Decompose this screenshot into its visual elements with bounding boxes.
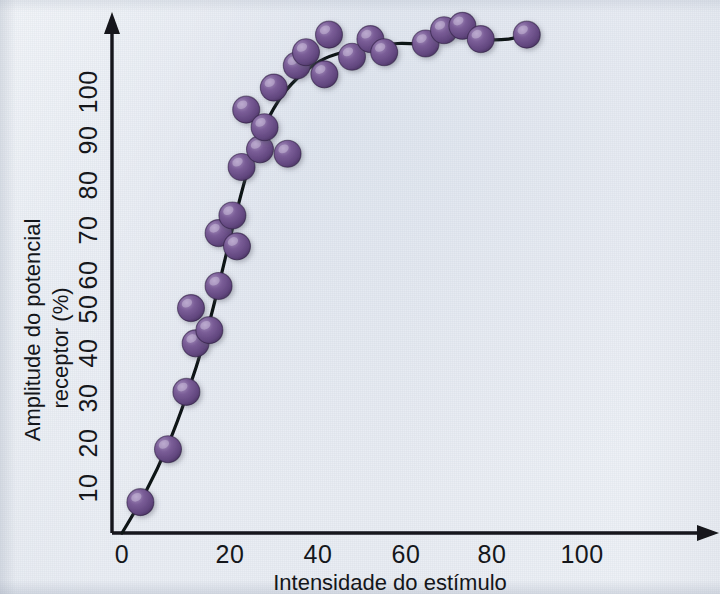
data-point-marker [219, 202, 246, 229]
y-tick-label-group: 10 20 30 40 50 60 70 80 90 100 [74, 70, 102, 502]
x-tick-label: 100 [560, 540, 603, 568]
data-point-marker [196, 317, 223, 344]
x-tick-label: 80 [478, 540, 507, 568]
data-point-marker [155, 436, 182, 463]
y-tick-label: 20 [74, 429, 102, 458]
data-point-marker [371, 39, 398, 66]
data-point-marker [467, 26, 494, 53]
data-point-marker [205, 273, 232, 300]
x-axis-title: Intensidade do estímulo [273, 570, 507, 594]
y-tick-label: 60 [74, 261, 102, 290]
receptor-potential-chart: 10 20 30 40 50 60 70 80 90 100 Amplitude… [0, 0, 720, 594]
y-tick-label: 50 [74, 295, 102, 324]
y-tick-label: 40 [74, 339, 102, 368]
data-point-marker [127, 489, 154, 516]
fitted-curve [122, 30, 527, 533]
data-point-layer [127, 12, 540, 515]
data-point-marker [173, 378, 200, 405]
x-axis-arrowhead [697, 525, 719, 541]
y-tick-label: 10 [74, 474, 102, 503]
x-tick-label: 20 [216, 540, 245, 568]
axis-group [104, 12, 719, 541]
x-tick-label: 60 [392, 540, 421, 568]
data-point-marker [251, 114, 278, 141]
data-point-marker [316, 21, 343, 48]
y-axis-arrowhead [104, 12, 120, 34]
y-tick-label: 70 [74, 216, 102, 245]
data-point-marker [274, 140, 301, 167]
y-tick-label: 100 [74, 70, 102, 113]
data-point-marker [178, 295, 205, 322]
y-axis-title-line1: Amplitude do potencial [20, 219, 45, 442]
y-axis-title-line2: receptor (%) [48, 287, 73, 408]
x-tick-label: 0 [115, 540, 129, 568]
data-point-marker [513, 21, 540, 48]
data-point-marker [311, 61, 338, 88]
data-point-marker [224, 233, 251, 260]
y-tick-label: 30 [74, 384, 102, 413]
data-point-marker [293, 39, 320, 66]
y-tick-label: 80 [74, 171, 102, 200]
data-point-marker [260, 74, 287, 101]
y-axis-title: Amplitude do potencial receptor (%) [20, 219, 73, 442]
y-tick-label: 90 [74, 126, 102, 155]
x-tick-label-group: 0 20 40 60 80 100 [115, 540, 604, 568]
x-tick-label: 40 [304, 540, 333, 568]
